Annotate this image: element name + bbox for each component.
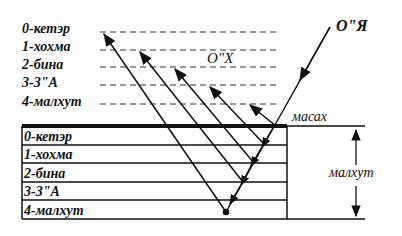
table-row-bina: 2-бина	[24, 167, 65, 181]
level-label-za: 3-З"А	[22, 76, 58, 90]
incoming-light-label: О"Я	[336, 18, 367, 34]
level-label-keter: 0-кетэр	[22, 22, 70, 36]
depth-label: малхут	[328, 166, 375, 180]
table-row-za: 3-З"А	[24, 185, 60, 199]
level-label-malchut: 4-малхут	[22, 95, 82, 109]
table-row-hochma: 1-хохма	[24, 148, 73, 162]
reflected-light-label: О"Х	[207, 51, 233, 66]
table-row-malchut: 4-малхут	[24, 204, 84, 218]
level-label-bina: 2-бина	[22, 58, 63, 72]
reflected-light	[104, 34, 276, 212]
screen-label: масах	[292, 110, 327, 124]
table-row-keter: 0-кетэр	[24, 130, 72, 144]
level-label-hochma: 1-хохма	[22, 40, 71, 54]
